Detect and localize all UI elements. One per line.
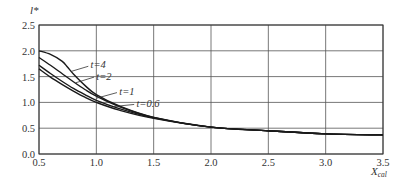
y-tick-label: 1.5: [22, 72, 35, 83]
x-tick-label: 1.0: [90, 157, 103, 168]
line-chart: 0.51.01.52.02.53.03.5 0.00.51.01.52.02.5…: [0, 0, 409, 186]
x-tick-label: 2.0: [204, 157, 217, 168]
annotation-leader: [96, 93, 117, 99]
series-annotation: t=2: [96, 71, 112, 82]
series-annotation: t=0.6: [136, 98, 160, 109]
y-tick-label: 2.5: [22, 20, 35, 31]
x-tick-label: 2.5: [262, 157, 275, 168]
x-tick-label: 1.5: [147, 157, 160, 168]
series-annotation: t=4: [91, 59, 107, 70]
y-axis-label: l*: [30, 4, 39, 16]
x-tick-labels: 0.51.01.52.02.53.03.5: [32, 157, 389, 168]
x-tick-label: 3.0: [319, 157, 332, 168]
y-tick-label: 1.0: [22, 97, 35, 108]
y-tick-label: 0.5: [22, 123, 35, 134]
annotation-leader: [71, 66, 88, 71]
y-tick-label: 0.0: [22, 149, 35, 160]
series-annotation: t=1: [119, 86, 134, 97]
y-tick-labels: 0.00.51.01.52.02.5: [22, 20, 35, 160]
y-tick-label: 2.0: [22, 46, 35, 57]
x-tick-label: 3.5: [376, 157, 389, 168]
